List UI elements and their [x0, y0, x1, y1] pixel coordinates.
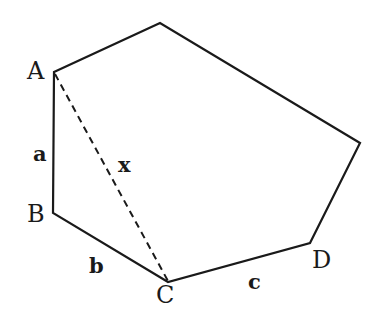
side-label-b: b	[89, 253, 104, 278]
diagonal-x	[55, 74, 168, 281]
side-label-a: a	[33, 141, 47, 166]
vertex-label-c: C	[156, 281, 174, 309]
polygon-diagram: A B C D a b c x	[0, 0, 380, 322]
side-label-c: c	[248, 269, 261, 294]
side-label-x: x	[118, 152, 131, 177]
vertex-label-d: D	[312, 246, 331, 274]
hexagon-outline	[53, 23, 360, 282]
vertex-label-b: B	[27, 200, 45, 228]
vertex-label-a: A	[26, 57, 45, 85]
